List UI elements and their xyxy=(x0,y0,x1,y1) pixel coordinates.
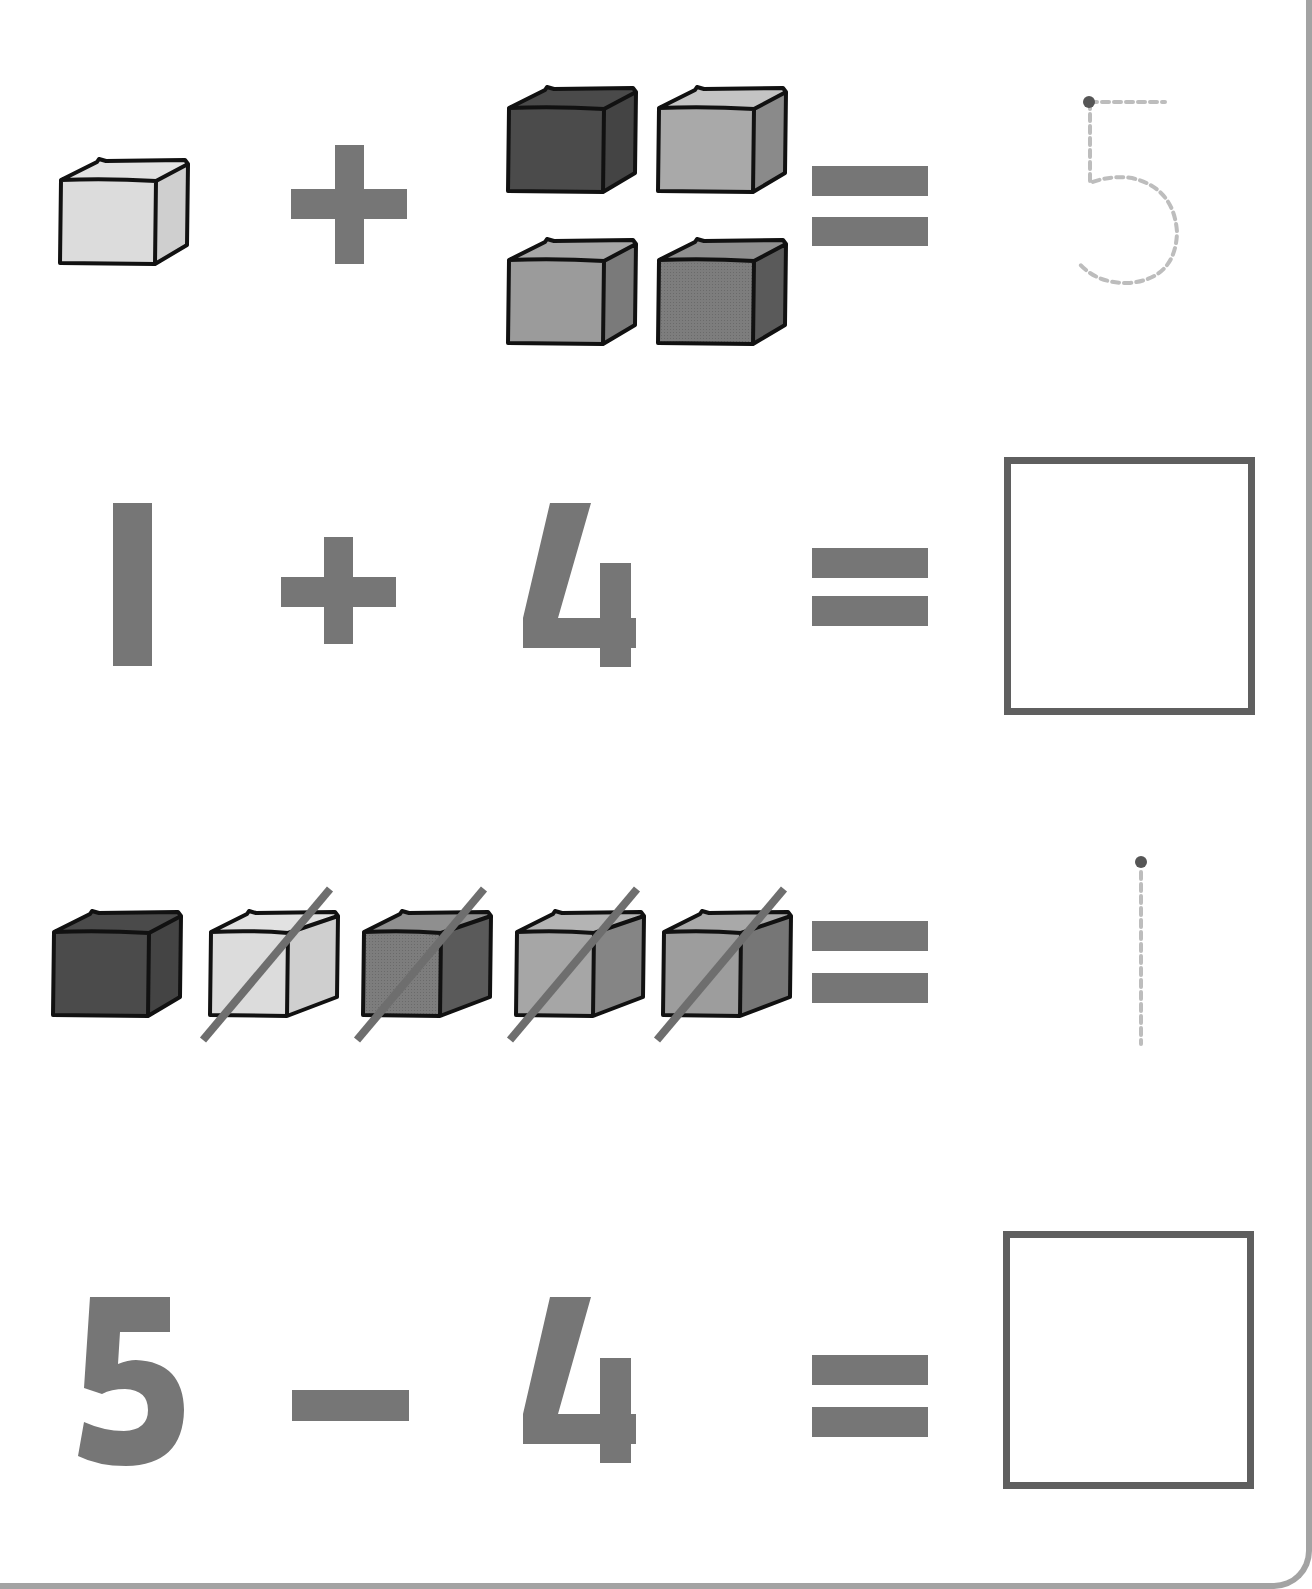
trace-digit-1[interactable] xyxy=(1130,852,1154,1048)
answer-box-row-4[interactable] xyxy=(1003,1231,1254,1489)
cross-out-line xyxy=(198,885,338,1045)
plus-sign-icon xyxy=(281,537,396,644)
cross-out-line xyxy=(505,885,645,1045)
minus-sign-icon xyxy=(292,1390,409,1422)
cross-out-line xyxy=(352,885,492,1045)
answer-box-row-2[interactable] xyxy=(1004,457,1255,715)
equals-sign-icon xyxy=(812,921,928,1003)
cube-icon-medium xyxy=(505,236,641,348)
digit-4 xyxy=(523,503,636,667)
cube-icon-dark xyxy=(50,908,186,1020)
equals-sign-icon xyxy=(812,548,928,626)
equals-sign-icon xyxy=(812,166,928,246)
digit-4 xyxy=(523,1297,636,1463)
cross-out-line xyxy=(652,885,792,1045)
cube-icon-dark xyxy=(505,84,641,196)
trace-digit-5[interactable] xyxy=(1070,90,1190,295)
cube-icon-medium-light xyxy=(655,84,791,196)
cube-icon-textured xyxy=(655,236,791,348)
equals-sign-icon xyxy=(812,1355,928,1437)
cube-icon-light xyxy=(57,156,193,268)
digit-5 xyxy=(78,1297,186,1467)
plus-sign-icon xyxy=(291,145,407,264)
digit-1 xyxy=(113,503,153,666)
